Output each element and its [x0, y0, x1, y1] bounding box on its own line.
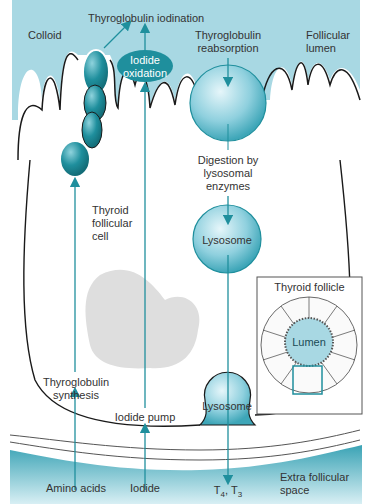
label-extra-follicular-space: Extra follicularspace: [280, 471, 349, 497]
vesicle: [82, 112, 102, 148]
inset-lumen-label: Lumen: [289, 336, 329, 349]
label-thyroglobulin-synthesis: Thyroglobulinsynthesis: [36, 376, 116, 402]
vesicle: [61, 142, 89, 176]
label-follicular-lumen: Follicularlumen: [306, 29, 350, 55]
label-thyroglobulin-iodination: Thyroglobulin iodination: [88, 12, 204, 25]
label-colloid: Colloid: [28, 29, 62, 42]
label-iodide-pump: Iodide pump: [110, 411, 180, 424]
label-iodide-oxidation: Iodideoxidation: [122, 54, 168, 80]
label-amino-acids: Amino acids: [36, 482, 116, 495]
label-iodide: Iodide: [125, 482, 165, 495]
label-t4-t3: T4, T3: [208, 484, 248, 501]
thyroid-cell-diagram: [0, 0, 368, 504]
label-thyroid-follicular-cell: Thyroidfollicularcell: [92, 204, 132, 243]
label-lysosome-lower: Lysosome: [197, 400, 257, 413]
inset-title: Thyroid follicle: [257, 281, 362, 294]
follicular-cell-outline: [18, 51, 360, 490]
label-lysosome-upper: Lysosome: [197, 234, 257, 247]
label-digestion: Digestion bylysosomalenzymes: [190, 154, 266, 193]
label-thyroglobulin-reabsorption: Thyroglobulinreabsorption: [188, 29, 268, 55]
